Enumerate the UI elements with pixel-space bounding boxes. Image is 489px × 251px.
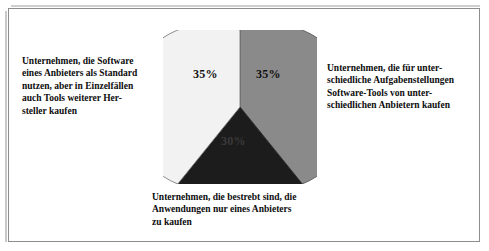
frame-shadow-left [5, 11, 7, 242]
pie-label-dark: 30% [221, 134, 246, 149]
annotation-right-line: schiedlichen Anbietern kaufen [327, 99, 477, 111]
pie-chart: 35% 35% 30% [163, 30, 317, 184]
annotation-bottom: Unternehmen, die bestrebt sind, die Anwe… [152, 191, 334, 228]
annotation-right-line: Software-Tools von unter- [327, 87, 477, 99]
pie-label-light: 35% [193, 67, 218, 82]
pie-label-gray: 35% [256, 67, 281, 82]
annotation-right-line: Unternehmen, die für unter- [327, 62, 477, 74]
annotation-bottom-line: zu kaufen [152, 216, 334, 228]
annotation-left-line: eines Anbieters als Standard [22, 67, 164, 79]
annotation-left-line: nutzen, aber in Einzelfällen [22, 80, 164, 92]
chart-figure: 35% 35% 30% Unternehmen, die Software ei… [0, 0, 489, 251]
frame-shadow-top [11, 5, 480, 7]
annotation-left-line: steller kaufen [22, 105, 164, 117]
annotation-bottom-line: Anwendungen nur eines Anbieters [152, 203, 334, 215]
annotation-left-line: Unternehmen, die Software [22, 55, 164, 67]
annotation-bottom-line: Unternehmen, die bestrebt sind, die [152, 191, 334, 203]
annotation-left: Unternehmen, die Software eines Anbieter… [22, 55, 164, 117]
annotation-right-line: schiedliche Aufgabenstellungen [327, 74, 477, 86]
annotation-right: Unternehmen, die für unter- schiedliche … [327, 62, 477, 112]
annotation-left-line: auch Tools weiterer Her- [22, 92, 164, 104]
pie-svg [163, 30, 317, 184]
